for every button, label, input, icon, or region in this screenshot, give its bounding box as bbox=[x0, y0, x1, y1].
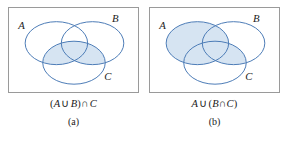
venn-panel-a: A B C (A ∪ B)∩ C (a) bbox=[8, 7, 139, 127]
venn-diagram-figure: A B C (A ∪ B)∩ C (a) bbox=[0, 0, 288, 127]
expr-a-union-op: ∪ bbox=[61, 98, 69, 109]
expr-a-left-set: A bbox=[54, 98, 61, 109]
panel-label-a: (a) bbox=[68, 116, 79, 127]
set-label-c: C bbox=[245, 70, 253, 82]
set-label-a: A bbox=[158, 19, 166, 31]
expr-a-last-set: C bbox=[90, 98, 97, 109]
venn-svg-b: A B C bbox=[150, 8, 279, 92]
expr-b-intersect-op: ∩ bbox=[219, 98, 227, 109]
venn-panel-b: A B C A ∪ (B∩C) (b) bbox=[149, 7, 280, 127]
venn-box-b: A B C bbox=[149, 7, 280, 93]
expr-b-close-paren: ) bbox=[234, 98, 238, 109]
venn-box-a: A B C bbox=[8, 7, 139, 93]
expr-b-union-op: ∪ bbox=[199, 98, 207, 109]
expr-b-left-set: B bbox=[212, 98, 219, 109]
venn-expression-b: A ∪ (B∩C) bbox=[191, 98, 237, 110]
expr-b-right-set: C bbox=[227, 98, 234, 109]
set-label-b: B bbox=[253, 12, 260, 24]
set-label-a: A bbox=[17, 19, 25, 31]
expr-b-first-set: A bbox=[191, 98, 198, 109]
set-label-b: B bbox=[112, 12, 119, 24]
set-label-c: C bbox=[104, 70, 112, 82]
panel-label-b: (b) bbox=[209, 116, 221, 127]
venn-svg-a: A B C bbox=[9, 8, 138, 92]
expr-a-intersect-op: ∩ bbox=[81, 98, 89, 109]
venn-expression-a: (A ∪ B)∩ C bbox=[50, 98, 97, 110]
